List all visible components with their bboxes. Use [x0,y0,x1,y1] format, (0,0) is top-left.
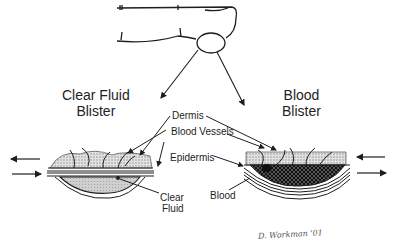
finger-outline-icon [117,5,237,42]
arrow-to-blood-blister [217,52,244,105]
clear-fluid-blister-illustration [47,148,154,198]
title-line-2: Blister [62,103,130,119]
label-dermis: Dermis [172,110,204,121]
title-line-1: Clear Fluid [62,87,130,103]
label-epidermis: Epidermis [170,152,214,163]
title-line-1: Blood [282,87,321,103]
label-clear-fluid: Clear Fluid [160,192,184,214]
zoom-circle-icon [197,33,225,53]
label-clear-fluid-line-2: Fluid [160,203,184,214]
blood-blister-illustration [244,148,350,199]
arrow-to-clear-blister [161,50,198,98]
blister-diagram [0,0,399,249]
title-line-2: Blister [282,103,321,119]
label-blood: Blood [210,190,236,201]
shear-force-arrows-icon [11,159,41,174]
shear-force-arrows-icon [357,157,386,173]
label-blood-vessels: Blood Vessels [171,126,234,137]
label-clear-fluid-line-1: Clear [160,192,184,203]
blood-blister-title: Blood Blister [282,87,321,119]
clear-fluid-blister-title: Clear Fluid Blister [62,87,130,119]
